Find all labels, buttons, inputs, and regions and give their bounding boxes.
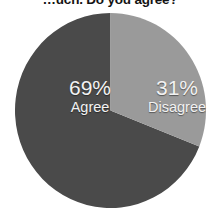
pie-label-agree: 69% Agree <box>53 76 127 116</box>
pie-label-agree-name: Agree <box>53 99 127 116</box>
pie-chart-figure: …uch. Do you agree? 69% Agree 31% Disagr… <box>0 0 220 222</box>
pie-chart: 69% Agree 31% Disagree <box>15 13 206 208</box>
chart-title-clip: …uch. Do you agree? <box>0 0 220 10</box>
page-title: …uch. Do you agree? <box>0 0 220 7</box>
pie-label-disagree-name: Disagree <box>131 99 220 116</box>
pie-label-disagree: 31% Disagree <box>131 76 220 116</box>
pie-label-agree-percent: 69% <box>53 76 127 99</box>
pie-label-disagree-percent: 31% <box>131 76 220 99</box>
